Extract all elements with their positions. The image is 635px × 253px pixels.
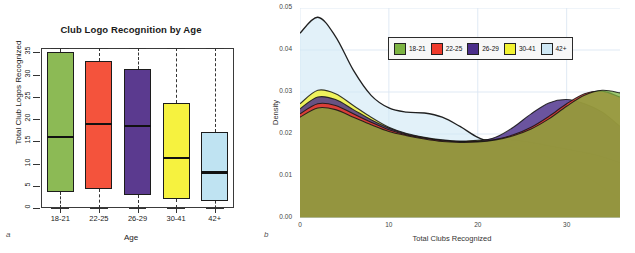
legend-swatch-icon [504, 43, 516, 55]
boxplot-x-axis-label: Age [0, 233, 262, 242]
boxplot-y-tick-label: 25 [24, 88, 31, 102]
boxplot-median-line [85, 123, 112, 125]
boxplot-iqr-box [85, 61, 112, 189]
boxplot-upper-cap [51, 48, 69, 49]
density-x-tick-label: 20 [465, 221, 491, 228]
boxplot-lower-whisker [176, 199, 177, 208]
panel-a-boxplot: Club Logo Recognition by Age Total Club … [0, 0, 262, 253]
boxplot-median-line [201, 171, 228, 173]
figure-root: Club Logo Recognition by Age Total Club … [0, 0, 635, 253]
legend-item-42+[interactable]: 42+ [541, 43, 567, 55]
boxplot-lower-cap [129, 208, 147, 209]
boxplot-median-line [47, 136, 74, 138]
legend-item-30-41[interactable]: 30-41 [504, 43, 536, 55]
boxplot-iqr-box [201, 132, 228, 202]
density-y-tick-label: 0.04 [262, 45, 292, 52]
boxplot-y-tick [33, 141, 40, 142]
boxplot-x-tick-label: 42+ [193, 214, 237, 223]
legend-swatch-icon [467, 43, 479, 55]
density-y-tick-label: 0.01 [262, 171, 292, 178]
boxplot-upper-whisker [176, 48, 177, 103]
boxplot-upper-whisker [99, 48, 100, 61]
legend-label: 26-29 [482, 45, 499, 52]
legend-label: 30-41 [519, 45, 536, 52]
density-x-tick-label: 10 [376, 221, 402, 228]
boxplot-upper-cap [206, 48, 224, 49]
panel-a-caption: a [6, 230, 10, 239]
boxplot-upper-whisker [138, 48, 139, 69]
boxplot-y-tick-label: 15 [24, 133, 31, 147]
density-x-tick-label: 0 [287, 221, 313, 228]
boxplot-lower-cap [167, 208, 185, 209]
legend-swatch-icon [541, 43, 553, 55]
density-x-axis-label: Total Clubs Recognized [292, 234, 612, 243]
boxplot-lower-whisker [60, 192, 61, 208]
boxplot-y-tick-label: 10 [24, 155, 31, 169]
boxplot-y-tick [33, 97, 40, 98]
boxplot-y-tick-label: 30 [24, 66, 31, 80]
legend-item-18-21[interactable]: 18-21 [394, 43, 426, 55]
legend-swatch-icon [431, 43, 443, 55]
boxplot-upper-cap [167, 48, 185, 49]
boxplot-x-tick-label: 30-41 [154, 214, 198, 223]
boxplot-lower-whisker [99, 189, 100, 208]
boxplot-iqr-box [124, 69, 151, 194]
legend-swatch-icon [394, 43, 406, 55]
density-y-tick-label: 0.03 [262, 87, 292, 94]
density-y-tick-label: 0.05 [262, 3, 292, 10]
boxplot-lower-cap [51, 208, 69, 209]
boxplot-lower-cap [90, 208, 108, 209]
boxplot-y-tick [33, 75, 40, 76]
boxplot-y-tick [33, 186, 40, 187]
boxplot-upper-whisker [215, 48, 216, 132]
boxplot-x-tick-label: 22-25 [77, 214, 121, 223]
boxplot-iqr-box [163, 103, 190, 199]
boxplot-x-tick-label: 26-29 [116, 214, 160, 223]
boxplot-upper-cap [129, 48, 147, 49]
boxplot-y-tick [33, 164, 40, 165]
boxplot-y-tick-label: 20 [24, 111, 31, 125]
boxplot-lower-whisker [138, 195, 139, 208]
boxplot-y-tick [33, 52, 40, 53]
boxplot-upper-cap [90, 48, 108, 49]
boxplot-lower-whisker [215, 201, 216, 208]
boxplot-y-tick [33, 119, 40, 120]
boxplot-lower-cap [206, 208, 224, 209]
boxplot-y-tick [33, 208, 40, 209]
boxplot-y-tick-label: 35 [24, 44, 31, 58]
density-y-tick-label: 0.00 [262, 213, 292, 220]
density-legend[interactable]: 18-2122-2526-2930-4142+ [388, 37, 573, 60]
panel-b-density: Density Total Clubs Recognized 0.000.010… [262, 0, 635, 253]
boxplot-iqr-box [47, 52, 74, 192]
legend-item-22-25[interactable]: 22-25 [431, 43, 463, 55]
legend-label: 42+ [556, 45, 567, 52]
boxplot-median-line [124, 125, 151, 127]
boxplot-x-tick-label: 18-21 [38, 214, 82, 223]
page-title: Club Logo Recognition by Age [0, 24, 262, 35]
boxplot-y-axis-label: Total Club Logos Recognized [14, 28, 23, 158]
density-y-tick-label: 0.02 [262, 129, 292, 136]
panel-b-caption: b [264, 230, 268, 239]
legend-item-26-29[interactable]: 26-29 [467, 43, 499, 55]
boxplot-median-line [163, 157, 190, 159]
boxplot-y-tick-label: 5 [24, 177, 31, 191]
legend-label: 18-21 [409, 45, 426, 52]
legend-label: 22-25 [446, 45, 463, 52]
boxplot-y-tick-label: 0 [24, 200, 31, 214]
density-x-tick-label: 30 [554, 221, 580, 228]
